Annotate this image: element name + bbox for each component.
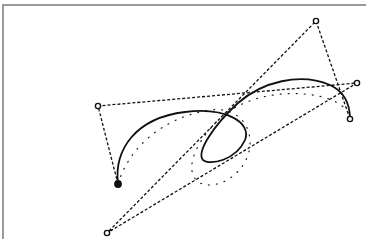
control-points xyxy=(95,18,359,235)
bezier-diagram xyxy=(0,0,366,239)
solid-curve xyxy=(118,79,350,184)
control-point-p3 xyxy=(104,230,109,235)
control-point-p1 xyxy=(95,103,100,108)
control-point-p2 xyxy=(354,80,359,85)
control-point-end xyxy=(347,116,352,121)
control-point-start xyxy=(115,181,121,187)
control-polygon xyxy=(98,21,357,233)
control-point-p4 xyxy=(313,18,318,23)
